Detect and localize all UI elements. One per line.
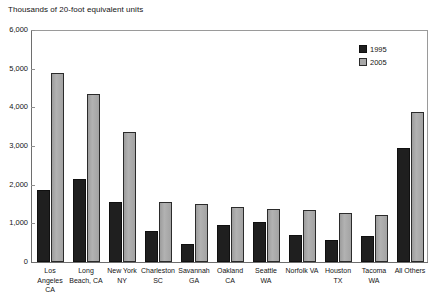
y-axis-tick-label: 3,000 <box>0 141 28 151</box>
y-axis-tick-text: 6,000 <box>9 25 28 34</box>
x-axis-label-tacoma-wa: Tacoma WA <box>356 266 392 285</box>
bar-group <box>248 30 284 262</box>
legend-swatch-icon-2005 <box>359 58 367 66</box>
x-axis-label-new-york-ny: New York NY <box>104 266 140 285</box>
y-axis-tick-text: 5,000 <box>9 64 28 73</box>
y-axis-tick-text: 1,000 <box>9 218 28 227</box>
bar-group <box>284 30 320 262</box>
bar-2005-los-angeles-ca <box>51 73 64 262</box>
y-axis-tick-label: 0 <box>0 257 28 267</box>
bar-group <box>140 30 176 262</box>
bar-2005-oakland-ca <box>231 207 244 262</box>
bar-1995-savannah-ga <box>181 244 194 262</box>
bar-2005-tacoma-wa <box>375 215 388 262</box>
bar-chart: Thousands of 20-foot equivalent units 01… <box>0 0 433 306</box>
x-axis-line <box>31 262 428 263</box>
legend-item-2005: 2005 <box>359 57 417 67</box>
bar-2005-charleston-sc <box>159 202 172 262</box>
bar-1995-los-angeles-ca <box>37 190 50 262</box>
y-axis-tick-text: 4,000 <box>9 102 28 111</box>
y-axis-tick-label: 1,000 <box>0 218 28 228</box>
bar-group <box>176 30 212 262</box>
legend-label-1995: 1995 <box>370 45 387 54</box>
bar-group <box>68 30 104 262</box>
legend-label-2005: 2005 <box>370 58 387 67</box>
y-axis-tick-text: 3,000 <box>9 141 28 150</box>
bar-2005-long-beach-ca <box>87 94 100 262</box>
bar-group <box>212 30 248 262</box>
bar-1995-seattle-wa <box>253 222 266 262</box>
y-axis-tick-label: 5,000 <box>0 64 28 74</box>
y-axis-tick-text: 0 <box>24 257 28 266</box>
bar-2005-savannah-ga <box>195 204 208 262</box>
x-axis-label-seattle-wa: Seattle WA <box>248 266 284 285</box>
bar-1995-all-others <box>397 148 410 262</box>
x-axis-label-houston-tx: Houston TX <box>320 266 356 285</box>
chart-title: Thousands of 20-foot equivalent units <box>8 5 143 14</box>
bar-1995-charleston-sc <box>145 231 158 262</box>
bar-1995-norfolk-va <box>289 235 302 262</box>
bar-2005-new-york-ny <box>123 132 136 262</box>
bar-2005-houston-tx <box>339 213 352 262</box>
bar-1995-long-beach-ca <box>73 179 86 262</box>
x-axis-label-long-beach-ca: Long Beach, CA <box>68 266 104 285</box>
legend-swatch-icon-1995 <box>359 45 367 53</box>
bar-group <box>104 30 140 262</box>
bar-2005-all-others <box>411 112 424 262</box>
x-axis-label-charleston-sc: Charleston SC <box>140 266 176 285</box>
bar-group <box>32 30 68 262</box>
x-axis-label-oakland-ca: Oakland CA <box>212 266 248 285</box>
legend: 1995 2005 <box>359 44 417 70</box>
y-axis-tick-label: 6,000 <box>0 25 28 35</box>
x-axis-label-los-angeles-ca: Los Angeles CA <box>32 266 68 295</box>
bar-1995-new-york-ny <box>109 202 122 262</box>
x-axis-label-norfolk-va: Norfolk VA <box>284 266 320 276</box>
bar-group <box>320 30 356 262</box>
bar-1995-tacoma-wa <box>361 236 374 262</box>
y-axis-tick-label: 2,000 <box>0 180 28 190</box>
bar-2005-norfolk-va <box>303 210 316 262</box>
y-axis-tick-text: 2,000 <box>9 180 28 189</box>
x-axis-label-all-others: All Others <box>392 266 428 276</box>
y-axis-tick-label: 4,000 <box>0 102 28 112</box>
bar-1995-houston-tx <box>325 240 338 262</box>
legend-item-1995: 1995 <box>359 44 417 54</box>
x-axis-label-savannah-ga: Savannah GA <box>176 266 212 285</box>
bar-1995-oakland-ca <box>217 225 230 262</box>
bar-2005-seattle-wa <box>267 209 280 262</box>
